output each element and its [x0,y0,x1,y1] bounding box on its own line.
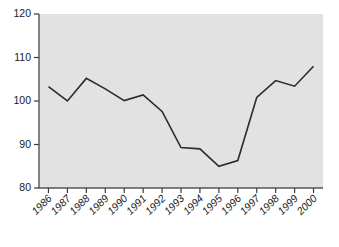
x-tick-label: 2000 [293,192,319,218]
x-tick-marks [48,188,313,193]
x-tick-label: 1989 [86,192,111,217]
x-tick-label: 1987 [48,191,74,217]
y-tick-marks [34,14,39,188]
x-tick-label: 1990 [105,192,130,217]
y-tick-label: 100 [13,94,31,106]
x-tick-label: 1994 [180,192,205,217]
x-tick-label: 1993 [161,192,186,217]
y-tick-label: 110 [14,51,31,63]
y-tick-label: 80 [19,181,31,193]
x-tick-labels: 1986198719881989199019911992199319941995… [29,191,319,218]
line-chart: 8090100110120 19861987198819891990199119… [0,0,339,247]
x-tick-label: 1998 [256,192,281,217]
y-tick-labels: 8090100110120 [13,7,31,193]
x-tick-label: 1991 [124,192,149,217]
x-tick-label: 1986 [29,192,54,217]
chart-canvas: 8090100110120 19861987198819891990199119… [0,0,339,247]
x-tick-label: 1999 [275,192,300,217]
x-tick-label: 1988 [67,192,92,217]
x-tick-label: 1995 [199,192,224,217]
x-tick-label: 1997 [237,191,263,217]
plot-area-background [39,14,323,188]
y-tick-label: 90 [19,138,31,150]
y-tick-label: 120 [13,7,31,19]
x-tick-label: 1992 [142,192,167,217]
x-tick-label: 1996 [218,192,243,217]
